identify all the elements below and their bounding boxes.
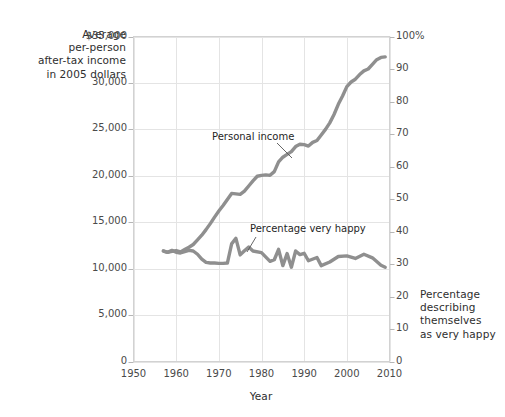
plot-area bbox=[0, 0, 505, 417]
annotation-leader-lines bbox=[247, 143, 292, 252]
chart-figure: Average per-person after-tax income in 2… bbox=[0, 0, 505, 417]
annotation-personal-income: Personal income bbox=[212, 131, 294, 142]
data-series-layer bbox=[163, 57, 385, 267]
plot-frame bbox=[134, 37, 390, 362]
gridlines bbox=[129, 37, 395, 363]
annotation-percentage-happy: Percentage very happy bbox=[250, 223, 366, 234]
